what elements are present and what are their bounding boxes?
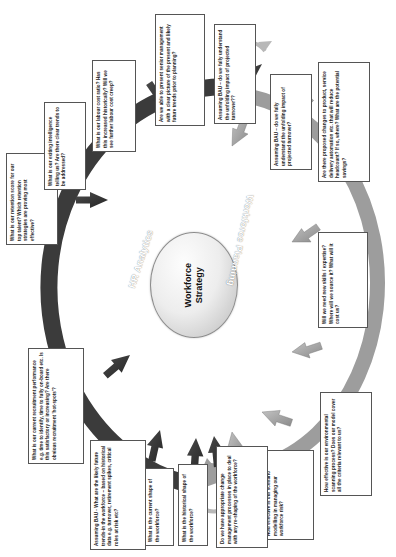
analytics-arrow-bau-trends [147,430,163,462]
question-box-change-management[interactable]: Do we have appropriate change management… [216,446,268,548]
question-box-environmental-scanning[interactable]: How effective is our environmental scann… [320,392,372,496]
workforce-strategy-diagram: Workforce Strategy HR Analytics Workforc… [0,0,396,557]
question-box-proposed-changes[interactable]: Are there proposed changes to product, s… [318,62,370,182]
question-box-historical-shape[interactable]: What is the historical shape of the work… [178,464,208,546]
question-box-recruitment-performance[interactable]: What is our current recruitment performa… [28,348,84,464]
question-box-current-shape[interactable]: What is the current shape of the workfor… [144,468,174,546]
planning-arrow-scenario-modelling [262,410,293,426]
question-box-bau-turnover-planning[interactable]: Assuming BAU – do we fully understand th… [270,74,312,170]
core-label: Workforce Strategy [183,263,206,307]
question-box-bau-turnover-analytics[interactable]: Assuming BAU – do we fully understand th… [214,24,256,124]
question-box-bau-future-trends[interactable]: Assuming BAU - What are the likely futur… [90,440,146,550]
question-box-present-to-senior-management[interactable]: Are we able to present senior management… [155,14,205,126]
planning-arrow-new-skills [292,224,320,242]
planning-arrow-environmental [292,342,322,358]
band-label-workforce-planning: Workforce Planning [226,194,256,287]
analytics-arrow-retention [76,192,108,208]
question-box-new-skills[interactable]: Will we need new skills / expertise? Whe… [318,232,368,328]
question-box-exiting-intelligence[interactable]: What is our exiting intelligence telling… [44,102,86,190]
analytics-arrow-recruitment [103,355,130,379]
question-box-labour-cost-ratio[interactable]: What is our labour cost ratio? Has this … [92,60,136,152]
question-box-scenario-modelling[interactable]: How effective is our scenario modelling … [262,450,314,540]
core-workforce-strategy: Workforce Strategy [150,232,238,338]
